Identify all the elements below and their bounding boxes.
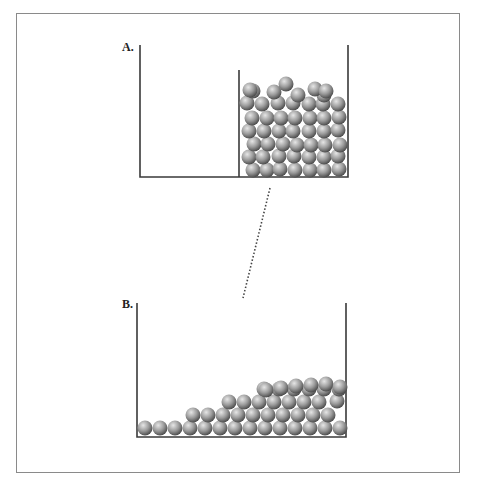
ball (317, 163, 332, 178)
ball (297, 395, 312, 410)
ball (243, 83, 258, 98)
ball (243, 421, 258, 436)
ball (168, 421, 183, 436)
ball (288, 163, 303, 178)
ball (306, 408, 321, 423)
ball (321, 408, 336, 423)
ball (333, 421, 348, 436)
ball (245, 111, 260, 126)
ball (272, 124, 287, 139)
ball (274, 381, 289, 396)
ball (318, 421, 333, 436)
ball (256, 150, 271, 165)
ball (198, 421, 213, 436)
ball (317, 111, 332, 126)
ball (246, 163, 261, 178)
ball (312, 395, 327, 410)
ball (286, 124, 301, 139)
ball (319, 377, 334, 392)
ball (231, 408, 246, 423)
ball (288, 111, 303, 126)
diagram-canvas (0, 0, 477, 487)
ball (186, 408, 201, 423)
ball (331, 97, 346, 112)
ball (246, 408, 261, 423)
ball (304, 138, 319, 153)
ball-group-b (138, 377, 348, 436)
ball (291, 408, 306, 423)
ball (290, 138, 305, 153)
ball (276, 408, 291, 423)
ball (333, 380, 348, 395)
ball (228, 421, 243, 436)
ball (318, 138, 333, 153)
ball (274, 111, 289, 126)
ball (258, 421, 273, 436)
ball (302, 124, 317, 139)
ball (255, 97, 270, 112)
ball (333, 138, 348, 153)
ball (153, 421, 168, 436)
ball (273, 162, 288, 177)
ball (289, 379, 304, 394)
ball (259, 383, 274, 398)
ball (242, 150, 257, 165)
dotted-connector-line (243, 188, 270, 298)
ball (213, 421, 228, 436)
ball (291, 88, 306, 103)
ball (319, 84, 334, 99)
ball (260, 111, 275, 126)
ball (247, 137, 262, 152)
ball (261, 137, 276, 152)
ball (303, 421, 318, 436)
ball (237, 395, 252, 410)
ball (331, 123, 346, 138)
ball (303, 163, 318, 178)
ball (332, 162, 347, 177)
ball (201, 408, 216, 423)
ball (216, 408, 231, 423)
ball (138, 421, 153, 436)
ball (276, 137, 291, 152)
ball-group-a (240, 77, 348, 178)
ball (282, 395, 297, 410)
ball (273, 421, 288, 436)
ball (260, 163, 275, 178)
ball (332, 110, 347, 125)
ball (242, 124, 257, 139)
ball (222, 395, 237, 410)
ball (303, 111, 318, 126)
ball (317, 124, 332, 139)
ball (304, 378, 319, 393)
ball (261, 408, 276, 423)
ball (279, 77, 294, 92)
ball (183, 421, 198, 436)
ball (257, 124, 272, 139)
ball (288, 421, 303, 436)
